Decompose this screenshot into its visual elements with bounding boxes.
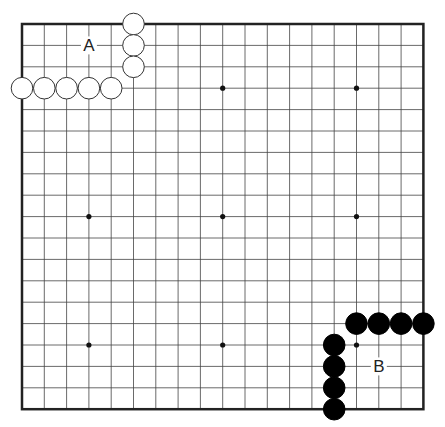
white-stone[interactable] [123, 35, 145, 57]
black-stone[interactable] [390, 313, 412, 335]
go-board: AB [0, 0, 445, 427]
star-point [86, 342, 91, 347]
white-stone[interactable] [11, 77, 33, 99]
star-point [354, 86, 359, 91]
white-stone[interactable] [123, 56, 145, 78]
star-point [86, 214, 91, 219]
white-stone[interactable] [123, 13, 145, 35]
black-stone[interactable] [323, 398, 345, 420]
black-stone[interactable] [323, 377, 345, 399]
star-point [354, 214, 359, 219]
black-stone[interactable] [323, 334, 345, 356]
star-point [220, 342, 225, 347]
star-point [354, 342, 359, 347]
white-stone[interactable] [78, 77, 100, 99]
star-point [220, 214, 225, 219]
black-stone[interactable] [323, 356, 345, 378]
star-point [220, 86, 225, 91]
point-label: B [373, 357, 384, 376]
white-stone[interactable] [56, 77, 78, 99]
black-stone[interactable] [368, 313, 390, 335]
black-stone[interactable] [413, 313, 435, 335]
white-stone[interactable] [100, 77, 122, 99]
point-label: A [83, 36, 95, 55]
white-stone[interactable] [34, 77, 56, 99]
black-stone[interactable] [346, 313, 368, 335]
